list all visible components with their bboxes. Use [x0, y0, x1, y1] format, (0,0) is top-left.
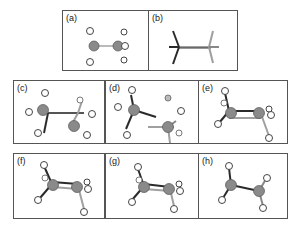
ethylene-product-diagram: [199, 154, 289, 220]
transition-structure-diagram: [106, 81, 200, 145]
transition-structure-diagram: [14, 154, 106, 220]
ethane-molecule-diagram: [63, 11, 150, 72]
transition-structure-diagram: [14, 81, 106, 145]
transition-structure-diagram: [106, 154, 200, 220]
panel-h: (h): [198, 153, 288, 219]
stick-model-diagram: [149, 11, 239, 72]
panel-f: (f): [13, 153, 105, 219]
panel-e: (e): [198, 80, 288, 144]
panel-c: (c): [13, 80, 105, 144]
panel-d: (d): [105, 80, 199, 144]
panel-b: (b): [148, 10, 238, 71]
transition-structure-diagram: [199, 81, 289, 145]
panel-a: (a): [62, 10, 149, 71]
panel-g: (g): [105, 153, 199, 219]
